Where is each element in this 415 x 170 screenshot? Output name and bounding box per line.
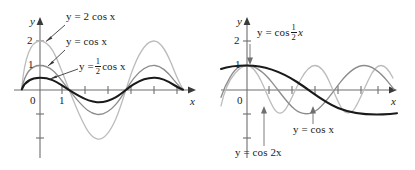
y-axis-arrowhead	[244, 17, 251, 25]
x-axis-label: x	[190, 96, 195, 107]
x-tick-label-1: 1	[59, 95, 65, 106]
fraction-denominator: 2	[95, 66, 101, 76]
y-axis-arrowhead	[37, 17, 44, 25]
fraction-one-half: 12	[95, 57, 101, 75]
curve-label-cosx: y = cos x	[66, 36, 107, 47]
fraction-denominator: 2	[291, 32, 297, 42]
y-tick-label-1: 1	[28, 59, 34, 70]
chart-panel-period: y x 0 1 2 y = cos12x y = cos x y = cos 2…	[207, 0, 415, 170]
cosine-graphs-figure: y x 0 1 1 2 y = 2 cos x y = cos x y =12c…	[0, 0, 415, 170]
curve-label-cos2x: y = cos 2x	[235, 147, 282, 158]
fraction-numerator: 1	[95, 57, 101, 66]
fraction-numerator: 1	[291, 23, 297, 32]
fraction-one-half: 12	[291, 23, 297, 41]
y-tick-label-2: 2	[234, 35, 240, 46]
y-axis-label: y	[237, 16, 242, 27]
curve-label-cos-half-x: y = cos12x	[257, 23, 303, 41]
curve-label-half-cosx: y =12cos x	[79, 57, 126, 75]
curve-label-cos-half-x-lead: y = cos	[257, 26, 290, 38]
origin-label: 0	[237, 95, 243, 106]
y-tick-label-1: 1	[235, 59, 241, 70]
curve-label-2cosx: y = 2 cos x	[66, 11, 115, 22]
axes-group-right	[221, 17, 397, 158]
x-axis-arrowhead	[188, 86, 196, 93]
x-axis-label: x	[391, 96, 396, 107]
y-axis-label: y	[30, 16, 35, 27]
curve-label-cos-half-x-tail: x	[298, 26, 303, 38]
curve-label-half-cosx-tail: cos x	[102, 60, 125, 72]
chart-panel-amplitude: y x 0 1 1 2 y = 2 cos x y = cos x y =12c…	[0, 0, 207, 170]
y-tick-label-2: 2	[27, 35, 33, 46]
curve-label-half-cosx-lead: y =	[79, 60, 94, 72]
origin-label: 0	[30, 95, 36, 106]
curve-label-cosx-right: y = cos x	[293, 124, 334, 135]
